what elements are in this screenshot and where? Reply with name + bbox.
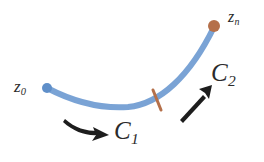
- label-zn: zn: [228, 9, 239, 25]
- label-c2: C2: [211, 60, 235, 85]
- label-c2-base: C: [211, 59, 228, 86]
- start-point-dot: [42, 83, 52, 93]
- label-z0: z0: [14, 78, 26, 95]
- end-point-dot: [208, 20, 220, 32]
- label-z0-base: z: [14, 77, 21, 96]
- label-c1: C1: [114, 118, 138, 143]
- label-z0-subscript: 0: [21, 86, 26, 97]
- label-zn-subscript: n: [234, 16, 239, 27]
- label-c1-base: C: [114, 117, 131, 144]
- contour-figure: z0 zn C1 C2: [0, 0, 264, 162]
- label-c1-subscript: 1: [131, 130, 139, 147]
- label-c2-subscript: 2: [228, 72, 236, 89]
